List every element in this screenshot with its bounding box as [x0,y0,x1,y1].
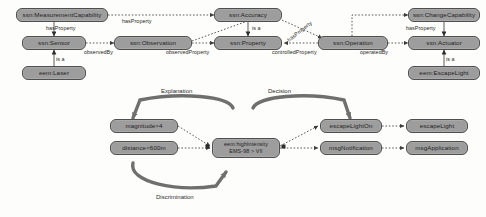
node-actuator[interactable]: ssn:Actuator [408,36,480,50]
node-distance-condition[interactable]: distance<600m [110,141,178,155]
node-property[interactable]: ssn:Property [214,36,282,50]
node-operation[interactable]: ssn:Operation [318,36,388,50]
node-msg-application[interactable]: msgApplication [406,141,468,155]
arc-label-discrimination: Discrimination [156,194,194,200]
node-msg-notification[interactable]: msgNotification [320,141,382,155]
edge-label-observed-by: observedBy [84,49,113,55]
node-escape-light[interactable]: escapeLight [406,119,468,133]
edge-label-controlled-property: controlledProperty [272,49,317,55]
diagram-edges-layer [0,0,486,217]
node-escape-light-class[interactable]: eem:EscapeLight [408,66,480,80]
node-escape-light-on[interactable]: escapeLightOn [320,119,382,133]
node-change-capability[interactable]: ssn:ChangeCapability [408,8,480,22]
node-magnitude-condition[interactable]: magnitude>4 [110,119,178,133]
arc-label-explanation: Explanation [161,88,192,94]
edge-label-has-property-actuator: hasProperty [406,25,436,31]
node-accuracy[interactable]: ssn:Accuracy [214,8,282,22]
edge-label-has-property-sensor: hasProperty [46,25,76,31]
edge-label-is-a-escape-light: is a [446,56,455,62]
edge-label-observed-property: observedProperty [166,49,209,55]
node-observation[interactable]: ssn:Observation [114,36,192,50]
node-laser[interactable]: eem:Laser [22,66,86,80]
node-high-intensity[interactable]: eem:highIntensity EMS-98 > VII [212,138,280,158]
node-sensor[interactable]: ssn:Sensor [22,36,86,50]
edge-label-has-property-top: hasProperty [122,18,152,24]
edge-label-operated-by: operatedBy [360,49,388,55]
edge-label-is-a-accuracy: is a [252,25,261,31]
arc-label-decision: Decision [268,88,291,94]
diagram-canvas: ssn:MeasurementCapability ssn:Sensor eem… [0,0,486,217]
node-measurement-capability[interactable]: ssn:MeasurementCapability [16,8,108,22]
edge-label-is-a-laser: is a [56,56,65,62]
